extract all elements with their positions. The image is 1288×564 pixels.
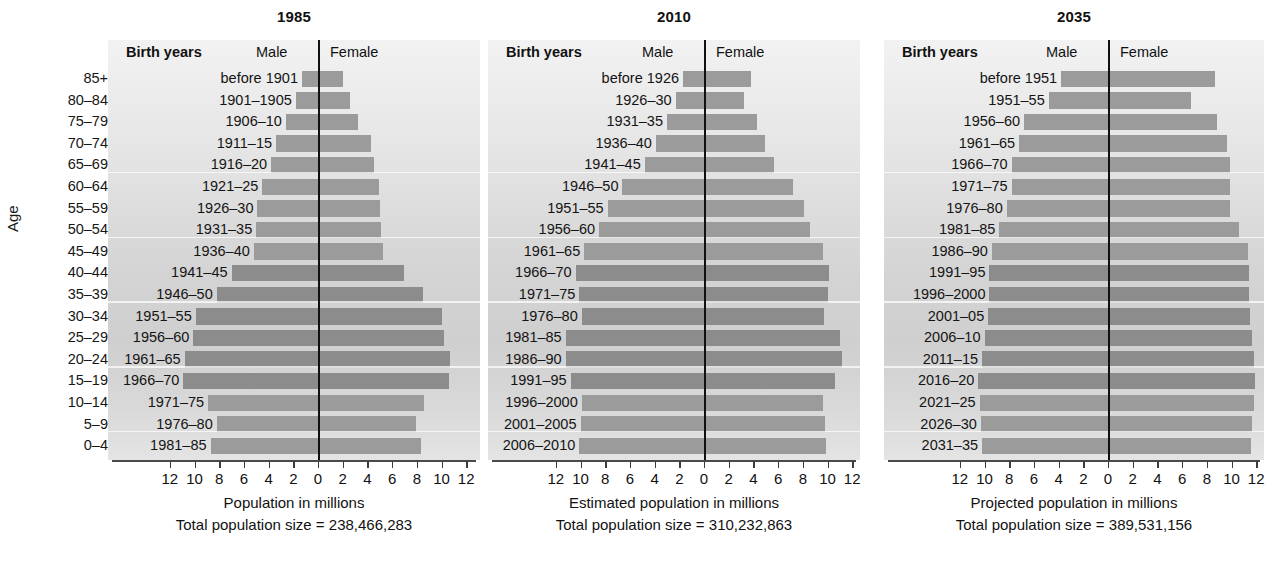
x-axis-tick — [367, 461, 368, 468]
birth-years-label: 1926–30 — [197, 198, 253, 220]
x-axis-tick — [630, 461, 631, 468]
x-axis-tick-label: 12 — [1244, 470, 1268, 487]
birth-years-label: 1941–45 — [171, 262, 227, 284]
x-axis-tick — [244, 461, 245, 468]
female-bar — [318, 265, 404, 281]
female-bar — [1108, 243, 1248, 259]
male-bar — [1007, 200, 1108, 216]
birth-years-label: 1971–75 — [148, 392, 204, 414]
x-axis-tick — [343, 461, 344, 468]
pyramid-row: 1951–55 — [108, 306, 480, 328]
female-bar — [704, 92, 744, 108]
female-bar — [1108, 71, 1215, 87]
birth-years-label: 2006–2010 — [503, 435, 576, 457]
birth-years-label: 1951–55 — [135, 306, 191, 328]
male-bar — [980, 395, 1108, 411]
birth-years-label: before 1951 — [980, 68, 1057, 90]
x-axis-tick-label: 12 — [948, 470, 972, 487]
x-axis-tick-label: 12 — [544, 470, 568, 487]
male-bar — [676, 92, 704, 108]
pyramid-row: 1981–85 — [108, 435, 480, 457]
female-bar — [318, 438, 421, 454]
x-axis-tick-label: 6 — [1170, 470, 1194, 487]
x-axis-tick — [1083, 461, 1084, 468]
birth-years-label: 1981–85 — [150, 435, 206, 457]
female-bar — [1108, 179, 1230, 195]
x-axis-tick — [1157, 461, 1158, 468]
x-axis-tick — [655, 461, 656, 468]
x-axis-tick-label: 6 — [618, 470, 642, 487]
male-bar — [302, 71, 318, 87]
female-bar — [318, 179, 379, 195]
pyramid-row: 2001–05 — [884, 306, 1264, 328]
birth-years-label: 1961–65 — [524, 241, 580, 263]
birth-years-label: 1986–90 — [505, 349, 561, 371]
x-axis-tick-label: 12 — [840, 470, 864, 487]
x-axis-tick — [753, 461, 754, 468]
pyramid-row: before 1926 — [488, 68, 860, 90]
x-axis-tick-label: 8 — [207, 470, 231, 487]
grid-guide — [108, 237, 480, 238]
male-header: Male — [1046, 44, 1077, 60]
pyramid-panel-2010: 2010Birth yearsMaleFemalebefore 19261926… — [488, 0, 860, 564]
pyramid-row: 2021–25 — [884, 392, 1264, 414]
birth-years-label: 1981–85 — [505, 327, 561, 349]
pyramid-row: 2031–35 — [884, 435, 1264, 457]
birth-years-label: 1946–50 — [562, 176, 618, 198]
pyramid-row: 1991–95 — [884, 262, 1264, 284]
x-axis-tick-label: 6 — [1022, 470, 1046, 487]
pyramid-row: 1951–55 — [884, 90, 1264, 112]
x-axis-caption: Population in millions — [108, 494, 480, 511]
x-axis-tick-label: 6 — [232, 470, 256, 487]
x-axis-caption: Projected population in millions — [884, 494, 1264, 511]
birth-years-label: 2016–20 — [918, 370, 974, 392]
pyramid-row: 1936–40 — [488, 133, 860, 155]
birth-years-label: 1956–60 — [539, 219, 595, 241]
age-label: 15–19 — [30, 370, 108, 392]
age-label: 45–49 — [30, 241, 108, 263]
female-bar — [318, 200, 380, 216]
x-axis-tick-label: 12 — [158, 470, 182, 487]
birth-years-label: 1906–10 — [225, 111, 281, 133]
x-axis-tick — [778, 461, 779, 468]
age-label: 60–64 — [30, 176, 108, 198]
birth-years-label: 1931–35 — [196, 219, 252, 241]
male-bar — [254, 243, 318, 259]
x-axis-tick-label: 10 — [183, 470, 207, 487]
x-axis-tick — [318, 461, 319, 468]
pyramid-row: 1901–1905 — [108, 90, 480, 112]
x-axis-tick-label: 4 — [355, 470, 379, 487]
female-bar — [318, 330, 444, 346]
x-axis-tick-label: 8 — [997, 470, 1021, 487]
x-axis-tick — [1256, 461, 1257, 468]
pyramid-row: 1921–25 — [108, 176, 480, 198]
male-bar — [1061, 71, 1108, 87]
x-axis-tick — [269, 461, 270, 468]
x-axis-tick — [293, 461, 294, 468]
birth-years-label: 1996–2000 — [913, 284, 986, 306]
total-population-label: Total population size = 389,531,156 — [884, 516, 1264, 533]
birth-years-label: 1971–75 — [951, 176, 1007, 198]
x-axis-tick — [1108, 461, 1109, 468]
x-axis-tick — [417, 461, 418, 468]
male-bar — [656, 135, 704, 151]
male-bar — [988, 308, 1108, 324]
age-axis-title: Age — [4, 205, 21, 232]
birth-years-label: 2001–2005 — [504, 414, 577, 436]
zero-axis-line — [318, 40, 320, 460]
pyramid-row: before 1901 — [108, 68, 480, 90]
pyramid-row: 1946–50 — [488, 176, 860, 198]
birth-years-label: 1956–60 — [964, 111, 1020, 133]
x-axis-line — [492, 460, 856, 462]
male-bar — [257, 200, 318, 216]
female-bar — [704, 71, 751, 87]
x-axis-tick — [803, 461, 804, 468]
female-bar — [704, 395, 823, 411]
birth-years-label: 1976–80 — [946, 198, 1002, 220]
male-bar — [985, 330, 1109, 346]
female-bar — [1108, 114, 1217, 130]
x-axis-tick-label: 2 — [331, 470, 355, 487]
pyramid-row: 1956–60 — [884, 111, 1264, 133]
x-axis-tick — [985, 461, 986, 468]
birth-years-label: 1911–15 — [217, 133, 272, 155]
